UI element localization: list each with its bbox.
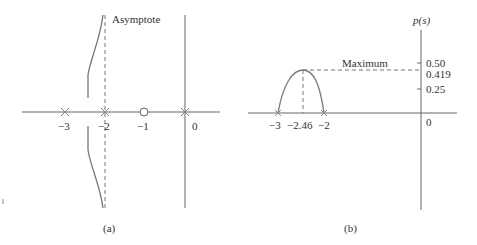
tick-label: −2 (318, 119, 330, 131)
locus-branch-upper (88, 15, 103, 98)
tick-label: 0 (192, 120, 198, 132)
y-axis-label: p(s) (412, 14, 430, 27)
maximum-label: Maximum (342, 57, 388, 69)
panel-a: −3 −2 −1 0 Asymptote (a) (3, 13, 220, 235)
p-of-s-curve (278, 70, 324, 113)
caption-b: (b) (344, 222, 357, 235)
tick-label: −2 (98, 120, 110, 132)
tick-label: −1 (137, 120, 149, 132)
y-tick-label: 0.25 (426, 83, 446, 95)
locus-branch-lower (88, 126, 103, 208)
zero-icon (140, 108, 148, 116)
y-tick-label: 0.419 (426, 68, 451, 80)
tick-label: −2.46 (287, 119, 313, 131)
origin-label: 0 (426, 116, 432, 128)
tick-label: −3 (269, 119, 281, 131)
root-locus-figure: −3 −2 −1 0 Asymptote (a) −3 −2.46 −2 0 0… (0, 0, 477, 245)
caption-a: (a) (103, 222, 116, 235)
panel-b: −3 −2.46 −2 0 0.50 0.419 0.25 p(s) Maxim… (248, 14, 457, 235)
tick-label: −3 (58, 120, 70, 132)
asymptote-label: Asymptote (112, 13, 160, 25)
